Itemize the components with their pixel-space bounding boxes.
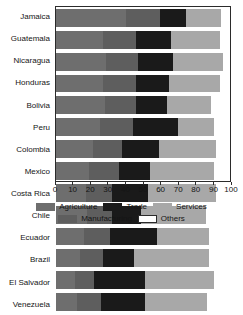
bar-segment-agriculture bbox=[56, 118, 100, 136]
bars-container bbox=[56, 7, 230, 181]
stacked-bar bbox=[56, 271, 230, 289]
bar-segment-trade bbox=[138, 53, 173, 71]
bar-segment-others bbox=[211, 96, 230, 114]
x-axis-tick-label: 40 bbox=[121, 186, 130, 194]
legend-swatch-others-icon bbox=[138, 215, 157, 223]
bar-segment-services bbox=[159, 140, 216, 158]
y-axis-label: Venezuela bbox=[0, 294, 53, 315]
legend-label: Agriculture bbox=[59, 203, 97, 211]
bar-row bbox=[56, 247, 230, 269]
legend-label: Manufacturing bbox=[81, 215, 132, 223]
bar-segment-trade bbox=[160, 9, 186, 27]
bar-segment-trade bbox=[103, 249, 134, 267]
x-axis-tick-label: 80 bbox=[191, 186, 200, 194]
y-axis-label: Peru bbox=[0, 117, 53, 139]
y-axis-country-labels: JamaicaGuatemalaNicaraguaHondurasBolivia… bbox=[0, 6, 53, 182]
bar-segment-agriculture bbox=[56, 75, 103, 93]
bar-segment-trade bbox=[136, 31, 171, 49]
bar-segment-agriculture bbox=[56, 249, 80, 267]
stacked-bar bbox=[56, 53, 230, 71]
bar-segment-others bbox=[209, 228, 230, 246]
bar-segment-agriculture bbox=[56, 293, 77, 311]
x-axis-tick-label: 20 bbox=[86, 186, 95, 194]
bar-segment-services bbox=[150, 162, 214, 180]
bar-segment-services bbox=[178, 118, 215, 136]
stacked-bar bbox=[56, 31, 230, 49]
legend-item-manufacturing[interactable]: Manufacturing bbox=[58, 215, 132, 223]
stacked-bar bbox=[56, 140, 230, 158]
bar-segment-agriculture bbox=[56, 9, 126, 27]
legend-swatch-trade-icon bbox=[103, 203, 122, 211]
stacked-bar bbox=[56, 293, 230, 311]
bar-segment-manufacturing bbox=[89, 162, 119, 180]
y-axis-label: Brazil bbox=[0, 249, 53, 271]
bar-row bbox=[56, 291, 230, 313]
plot-area bbox=[55, 6, 231, 182]
legend-item-services[interactable]: Services bbox=[153, 203, 207, 211]
x-axis-tick-label: 70 bbox=[174, 186, 183, 194]
y-axis-label: Ecuador bbox=[0, 227, 53, 249]
bar-row bbox=[56, 226, 230, 248]
y-axis-label: Honduras bbox=[0, 72, 53, 94]
bar-segment-services bbox=[171, 31, 220, 49]
bar-segment-manufacturing bbox=[103, 31, 136, 49]
y-axis-label: Guatemala bbox=[0, 28, 53, 50]
bar-segment-others bbox=[221, 9, 230, 27]
legend-row: ManufacturingOthers bbox=[0, 215, 243, 223]
bar-segment-trade bbox=[94, 271, 144, 289]
y-axis-label: Costa Rica bbox=[0, 183, 53, 205]
bar-segment-services bbox=[145, 293, 208, 311]
chart-legend: AgricultureTradeServicesManufacturingOth… bbox=[0, 203, 243, 227]
y-axis-label: El Salvador bbox=[0, 272, 53, 294]
x-axis-tick-label: 90 bbox=[209, 186, 218, 194]
bar-row bbox=[56, 138, 230, 160]
legend-item-trade[interactable]: Trade bbox=[103, 203, 147, 211]
stacked-bar bbox=[56, 118, 230, 136]
y-axis-label: Nicaragua bbox=[0, 50, 53, 72]
bar-segment-manufacturing bbox=[105, 96, 136, 114]
bar-segment-manufacturing bbox=[103, 75, 136, 93]
legend-item-agriculture[interactable]: Agriculture bbox=[36, 203, 97, 211]
stacked-bar bbox=[56, 9, 230, 27]
bar-row bbox=[56, 7, 230, 29]
bar-segment-services bbox=[169, 75, 219, 93]
bar-segment-others bbox=[214, 162, 230, 180]
bar-segment-services bbox=[134, 249, 209, 267]
legend-swatch-services-icon bbox=[153, 203, 172, 211]
bar-segment-agriculture bbox=[56, 228, 84, 246]
legend-swatch-agriculture-icon bbox=[36, 203, 55, 211]
stacked-bar bbox=[56, 96, 230, 114]
bar-segment-services bbox=[173, 53, 223, 71]
y-axis-label: Colombia bbox=[0, 139, 53, 161]
x-axis-tick-label: 30 bbox=[103, 186, 112, 194]
bar-segment-agriculture bbox=[56, 162, 89, 180]
bar-segment-trade bbox=[133, 118, 178, 136]
legend-item-others[interactable]: Others bbox=[138, 215, 185, 223]
y-axis-label: Mexico bbox=[0, 161, 53, 183]
bar-row bbox=[56, 94, 230, 116]
bar-segment-manufacturing bbox=[126, 9, 161, 27]
bar-segment-manufacturing bbox=[80, 249, 103, 267]
bar-row bbox=[56, 160, 230, 182]
bar-segment-trade bbox=[119, 162, 150, 180]
bar-segment-trade bbox=[110, 228, 157, 246]
x-axis-tick-label: 50 bbox=[139, 186, 148, 194]
bar-segment-manufacturing bbox=[100, 118, 133, 136]
bar-segment-services bbox=[167, 96, 211, 114]
bar-row bbox=[56, 269, 230, 291]
bar-segment-others bbox=[220, 75, 230, 93]
bar-segment-others bbox=[220, 31, 230, 49]
bar-segment-agriculture bbox=[56, 140, 93, 158]
bar-segment-manufacturing bbox=[77, 293, 101, 311]
bar-row bbox=[56, 116, 230, 138]
x-axis-tick-label: 10 bbox=[68, 186, 77, 194]
legend-row: AgricultureTradeServices bbox=[0, 203, 243, 211]
x-axis-tick-label: 0 bbox=[53, 186, 57, 194]
bar-segment-agriculture bbox=[56, 96, 105, 114]
bar-segment-manufacturing bbox=[93, 140, 123, 158]
bar-segment-trade bbox=[136, 96, 167, 114]
bar-segment-others bbox=[214, 271, 230, 289]
bar-segment-others bbox=[207, 293, 230, 311]
stacked-bar bbox=[56, 162, 230, 180]
